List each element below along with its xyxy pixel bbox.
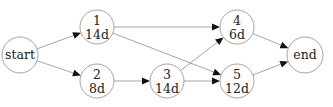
arrowhead-icon <box>279 61 288 68</box>
edge-2-to-3 <box>114 78 150 85</box>
node-duration-label: 12d <box>225 81 249 96</box>
node-id-label: 2 <box>93 67 101 82</box>
node-end: end <box>287 37 323 73</box>
edge-line <box>37 61 73 73</box>
edge-3-to-4 <box>180 37 223 70</box>
edge-line <box>37 36 74 49</box>
node-duration-label: 14d <box>155 81 179 96</box>
arrowhead-icon <box>72 32 81 39</box>
node-label: end <box>293 47 316 62</box>
arrowhead-icon <box>212 78 220 85</box>
edge-line <box>253 64 281 75</box>
node-duration-label: 6d <box>229 27 245 42</box>
node-2: 28d <box>80 64 114 98</box>
arrowhead-icon <box>212 69 221 76</box>
edge-1-to-4 <box>114 24 220 31</box>
arrowhead-icon <box>215 37 223 45</box>
node-5: 512d <box>220 64 254 98</box>
node-4: 46d <box>220 10 254 44</box>
edge-start-to-2 <box>37 61 81 77</box>
nodes: start114d28d314d46d512dend <box>2 10 323 98</box>
edge-3-to-5 <box>184 78 220 85</box>
node-1: 114d <box>80 10 114 44</box>
edge-4-to-end <box>253 33 289 48</box>
network-diagram: start114d28d314d46d512dend <box>0 0 333 107</box>
arrowhead-icon <box>142 78 150 85</box>
node-duration-label: 8d <box>89 81 105 96</box>
node-3: 314d <box>150 64 184 98</box>
node-id-label: 5 <box>233 67 241 82</box>
node-duration-label: 14d <box>85 27 109 42</box>
arrowhead-icon <box>212 24 220 31</box>
node-id-label: 3 <box>163 67 171 82</box>
node-start: start <box>2 37 38 73</box>
edge-line <box>253 33 281 45</box>
node-label: start <box>5 47 35 62</box>
edge-5-to-end <box>253 61 288 75</box>
node-id-label: 1 <box>93 13 101 28</box>
node-id-label: 4 <box>233 13 241 28</box>
arrowhead-icon <box>72 70 81 77</box>
edge-start-to-1 <box>37 32 81 49</box>
